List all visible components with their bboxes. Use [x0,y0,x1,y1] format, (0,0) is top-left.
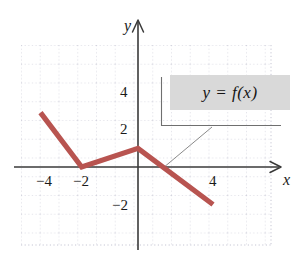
y-axis-name: y [124,18,131,34]
x-tick-label-minus4: −4 [36,174,52,189]
y-tick-label-minus2: −2 [112,198,128,213]
x-tick-label-minus2: −2 [73,174,89,189]
y-tick-label-4: 4 [120,85,128,100]
graph-canvas [0,0,301,259]
x-axis-name: x [283,172,290,188]
x-tick-label-4: 4 [209,174,217,189]
function-graph-figure: y = f(x) −4 −2 4 4 2 −2 y x [0,0,301,259]
function-label-box: y = f(x) [170,75,290,110]
function-label-text: y = f(x) [202,83,257,103]
y-tick-label-2: 2 [120,122,128,137]
